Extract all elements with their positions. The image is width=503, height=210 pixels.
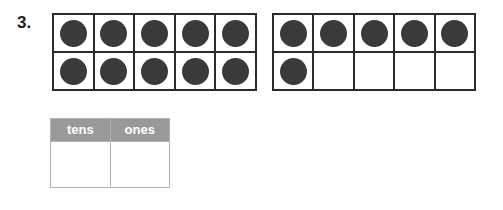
ten-frame-1-row-bottom [54, 53, 255, 89]
ten-frame-1-cell-r1c3[interactable] [135, 15, 176, 51]
counter-dot [441, 20, 468, 47]
ten-frame-1-row-top [54, 15, 255, 53]
ten-frame-2-cell-r1c1[interactable] [274, 15, 314, 51]
ten-frame-2 [272, 13, 476, 91]
ten-frame-1-cell-r1c1[interactable] [54, 15, 95, 51]
place-value-answer-row [51, 142, 170, 188]
counter-dot [182, 20, 209, 47]
place-value-table: tens ones [50, 118, 170, 188]
ten-frame-1 [52, 13, 257, 91]
counter-dot [222, 58, 249, 85]
counter-dot [280, 20, 307, 47]
ten-frame-1-cell-r2c5[interactable] [216, 53, 255, 89]
answer-cell-tens[interactable] [51, 142, 111, 188]
counter-dot [100, 58, 127, 85]
counter-dot [280, 58, 307, 85]
ten-frame-2-cell-r2c1[interactable] [274, 53, 314, 89]
counter-slot-empty [401, 58, 428, 85]
counter-slot-empty [441, 58, 468, 85]
counter-dot [60, 20, 87, 47]
counter-dot [222, 20, 249, 47]
ten-frame-1-cell-r2c1[interactable] [54, 53, 95, 89]
ten-frame-1-cell-r1c2[interactable] [95, 15, 136, 51]
ten-frame-2-row-bottom [274, 53, 474, 89]
ten-frame-2-cell-r1c2[interactable] [314, 15, 354, 51]
counter-dot [141, 20, 168, 47]
column-header-tens: tens [51, 119, 111, 142]
ten-frame-2-cell-r2c4[interactable] [395, 53, 435, 89]
counter-dot [401, 20, 428, 47]
place-value-header-row: tens ones [51, 119, 170, 142]
ten-frame-2-cell-r1c3[interactable] [355, 15, 395, 51]
counter-dot [182, 58, 209, 85]
ten-frame-1-cell-r1c4[interactable] [176, 15, 217, 51]
column-header-ones: ones [110, 119, 170, 142]
ten-frame-2-cell-r2c3[interactable] [355, 53, 395, 89]
ten-frame-2-cell-r1c4[interactable] [395, 15, 435, 51]
ten-frame-2-cell-r2c2[interactable] [314, 53, 354, 89]
ten-frame-1-cell-r2c3[interactable] [135, 53, 176, 89]
counter-dot [361, 20, 388, 47]
counter-slot-empty [361, 58, 388, 85]
ten-frame-1-cell-r1c5[interactable] [216, 15, 255, 51]
ten-frame-2-row-top [274, 15, 474, 53]
problem-number: 3. [17, 14, 31, 31]
counter-dot [141, 58, 168, 85]
counter-dot [320, 20, 347, 47]
ten-frame-1-cell-r2c2[interactable] [95, 53, 136, 89]
ten-frame-2-cell-r1c5[interactable] [436, 15, 474, 51]
counter-slot-empty [320, 58, 347, 85]
ten-frame-1-cell-r2c4[interactable] [176, 53, 217, 89]
answer-cell-ones[interactable] [110, 142, 170, 188]
counter-dot [60, 58, 87, 85]
ten-frame-2-cell-r2c5[interactable] [436, 53, 474, 89]
counter-dot [100, 20, 127, 47]
